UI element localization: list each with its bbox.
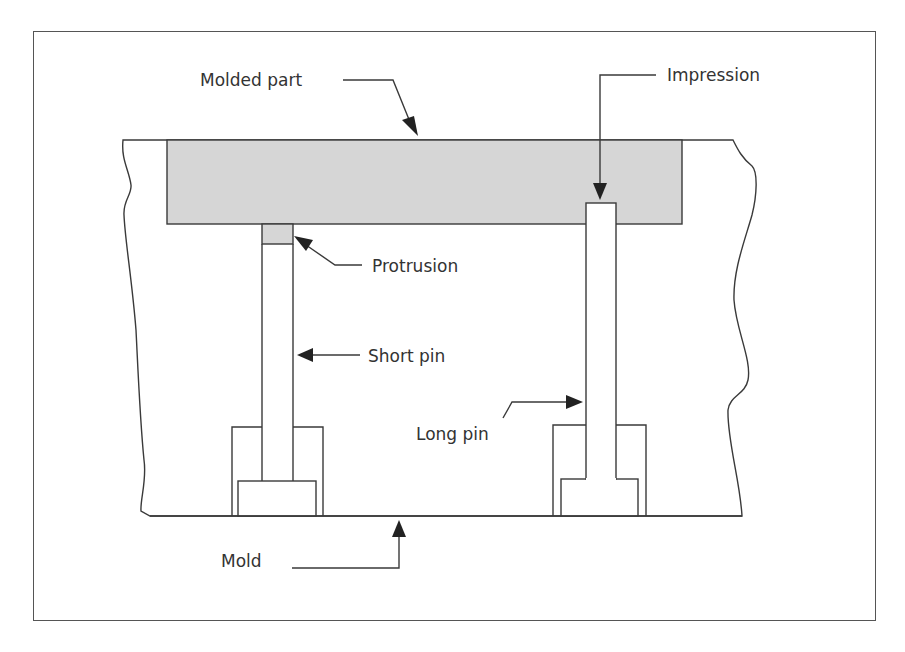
label-mold: Mold [221, 551, 262, 571]
arrow-right-icon [566, 395, 583, 409]
arrow-up-left-icon [294, 236, 313, 251]
arrow-left-icon [297, 348, 313, 362]
arrow-up-icon [392, 520, 406, 537]
short-pin-leader [297, 348, 360, 362]
arrow-down-icon [402, 116, 418, 136]
label-protrusion: Protrusion [372, 256, 458, 276]
label-short-pin: Short pin [368, 346, 445, 366]
label-impression: Impression [667, 65, 760, 85]
label-long-pin: Long pin [416, 424, 489, 444]
long-pin-shaft [586, 203, 616, 479]
short-pin-assembly [232, 244, 323, 516]
long-pin-head [561, 479, 638, 516]
molded-part-leader [343, 80, 418, 136]
short-pin-shaft [262, 244, 293, 481]
label-molded-part: Molded part [200, 70, 302, 90]
protrusion-leader [294, 236, 362, 265]
mold-diagram: Molded part Impression Protrusion Short … [0, 0, 905, 652]
short-pin-head [238, 481, 316, 516]
long-pin-assembly [553, 203, 646, 516]
mold-leader [292, 520, 406, 568]
protrusion [262, 224, 293, 244]
long-pin-leader [503, 395, 583, 418]
